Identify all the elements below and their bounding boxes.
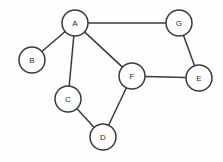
graph-node-a[interactable]: A bbox=[62, 10, 88, 36]
graph-node-label-a: A bbox=[72, 19, 78, 28]
graph-node-label-g: G bbox=[176, 19, 182, 28]
graph-node-g[interactable]: G bbox=[166, 10, 192, 36]
graph-node-label-f: F bbox=[129, 72, 134, 81]
graph-node-label-e: E bbox=[196, 74, 202, 83]
graph-edge-a-c bbox=[69, 36, 74, 86]
graph-node-d[interactable]: D bbox=[90, 124, 116, 150]
graph-canvas: ABCDEFG bbox=[0, 0, 223, 162]
node-layer: ABCDEFG bbox=[19, 10, 212, 150]
graph-node-b[interactable]: B bbox=[19, 47, 45, 73]
graph-edge-a-b bbox=[42, 31, 65, 51]
graph-edge-f-e bbox=[145, 76, 186, 77]
graph-edge-a-f bbox=[85, 32, 123, 67]
graph-edge-f-d bbox=[109, 88, 127, 126]
graph-node-c[interactable]: C bbox=[55, 86, 81, 112]
graph-node-label-c: C bbox=[65, 95, 71, 104]
graph-edge-g-e bbox=[183, 35, 194, 66]
graph-diagram: ABCDEFG bbox=[0, 0, 223, 162]
graph-node-f[interactable]: F bbox=[119, 63, 145, 89]
graph-node-label-b: B bbox=[29, 56, 35, 65]
graph-node-label-d: D bbox=[100, 133, 106, 142]
graph-node-e[interactable]: E bbox=[186, 65, 212, 91]
graph-edge-c-d bbox=[77, 109, 94, 128]
